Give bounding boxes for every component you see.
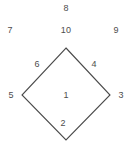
region-label-3: 3 [118,91,123,100]
region-label-6: 6 [34,60,39,69]
region-label-4: 4 [91,60,96,69]
region-label-1: 1 [63,91,68,100]
region-label-10: 10 [61,26,71,35]
diagram-canvas: 8 7 10 9 6 4 5 1 3 2 [0,0,133,150]
region-label-2: 2 [60,119,65,128]
region-label-7: 7 [7,26,12,35]
region-label-5: 5 [8,91,13,100]
diamond-shape [0,0,133,150]
region-label-8: 8 [63,4,68,13]
region-label-9: 9 [113,26,118,35]
